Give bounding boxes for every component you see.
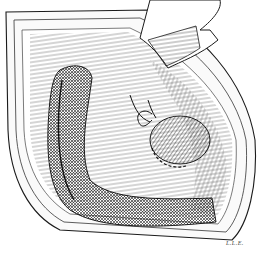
illustration-canvas: L.L.E.: [0, 0, 260, 255]
artist-signature: L.L.E.: [226, 240, 244, 246]
surgical-illustration: [0, 0, 260, 255]
